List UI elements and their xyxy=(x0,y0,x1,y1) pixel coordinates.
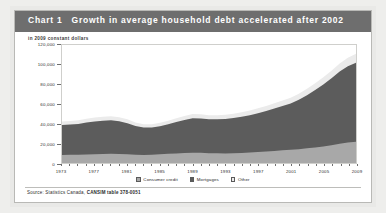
x-axis-tick-mark xyxy=(160,164,161,166)
legend-swatch-icon xyxy=(231,177,236,182)
x-axis-tick-mark xyxy=(69,164,70,166)
y-axis-tick-label: 60,000 xyxy=(15,102,55,107)
x-axis-tick-mark xyxy=(275,164,276,166)
x-axis-tick-mark xyxy=(61,164,62,166)
source-prefix: Source: Statistics Canada, xyxy=(27,190,87,195)
screenshot-root: Chart 1Growth in average household debt … xyxy=(0,0,386,213)
x-axis-tick-label: 1977 xyxy=(79,169,109,174)
x-axis-tick-label: 1981 xyxy=(112,169,142,174)
x-axis-tick-mark xyxy=(316,164,317,166)
x-axis-tick-mark xyxy=(291,164,292,166)
x-axis-tick-label: 2009 xyxy=(342,169,372,174)
x-axis-tick-mark xyxy=(135,164,136,166)
x-axis-tick-mark xyxy=(110,164,111,166)
x-axis-tick-mark xyxy=(225,164,226,166)
y-axis-tick-label: 100,000 xyxy=(15,62,55,67)
y-axis-tick-mark xyxy=(57,104,61,105)
x-axis-tick-mark xyxy=(176,164,177,166)
x-axis-tick-mark xyxy=(94,164,95,166)
x-axis-tick-mark xyxy=(299,164,300,166)
source-note: Source: Statistics Canada, CANSIM table … xyxy=(27,190,141,195)
plot-container: 020,00040,00060,00080,000100,000120,000 … xyxy=(15,11,371,202)
legend-label: Consumer credit xyxy=(143,177,177,182)
legend-item[interactable]: Other xyxy=(231,177,250,182)
x-axis-tick-mark xyxy=(250,164,251,166)
x-axis-tick-mark xyxy=(341,164,342,166)
y-axis-tick-label: 20,000 xyxy=(15,142,55,147)
x-axis-tick-label: 2001 xyxy=(276,169,306,174)
x-axis-tick-mark xyxy=(217,164,218,166)
x-axis-tick-mark xyxy=(151,164,152,166)
y-axis-tick-label: 120,000 xyxy=(15,42,55,47)
x-axis-tick-mark xyxy=(267,164,268,166)
y-axis-tick-label: 0 xyxy=(15,162,55,167)
legend-swatch-icon xyxy=(136,177,141,182)
x-axis-tick-mark xyxy=(349,164,350,166)
x-axis-tick-mark xyxy=(209,164,210,166)
y-axis-tick-mark xyxy=(57,64,61,65)
stacked-area-series xyxy=(62,45,356,163)
x-axis-tick-mark xyxy=(308,164,309,166)
y-axis-tick-mark xyxy=(57,44,61,45)
chart-legend: Consumer creditMortgagesOther xyxy=(15,177,371,182)
x-axis-tick-mark xyxy=(258,164,259,166)
x-axis-tick-mark xyxy=(357,164,358,166)
x-axis-tick-mark xyxy=(201,164,202,166)
legend-swatch-icon xyxy=(190,177,195,182)
x-axis-tick-mark xyxy=(234,164,235,166)
y-axis-tick-label: 40,000 xyxy=(15,122,55,127)
y-axis-tick-label: 80,000 xyxy=(15,82,55,87)
y-axis-tick-mark xyxy=(57,144,61,145)
legend-item[interactable]: Mortgages xyxy=(190,177,219,182)
x-axis-tick-label: 1997 xyxy=(243,169,273,174)
chart-card: Chart 1Growth in average household debt … xyxy=(14,10,372,203)
x-axis-tick-mark xyxy=(77,164,78,166)
x-axis-tick-label: 1985 xyxy=(145,169,175,174)
x-axis-tick-mark xyxy=(184,164,185,166)
x-axis-tick-label: 1989 xyxy=(178,169,208,174)
y-axis-tick-mark xyxy=(57,84,61,85)
x-axis-tick-label: 1993 xyxy=(210,169,240,174)
legend-item[interactable]: Consumer credit xyxy=(136,177,177,182)
x-axis-tick-mark xyxy=(86,164,87,166)
legend-label: Mortgages xyxy=(197,177,219,182)
y-axis-tick-mark xyxy=(57,124,61,125)
x-axis-tick-mark xyxy=(127,164,128,166)
x-axis-tick-mark xyxy=(242,164,243,166)
x-axis-tick-mark xyxy=(332,164,333,166)
x-axis-tick-mark xyxy=(168,164,169,166)
source-table-ref: CANSIM table 378-0051 xyxy=(87,190,141,195)
x-axis-tick-mark xyxy=(324,164,325,166)
x-axis-tick-label: 2005 xyxy=(309,169,339,174)
legend-label: Other xyxy=(238,177,250,182)
x-axis-tick-mark xyxy=(283,164,284,166)
x-axis-tick-mark xyxy=(143,164,144,166)
x-axis-tick-mark xyxy=(119,164,120,166)
source-divider xyxy=(25,187,361,188)
plot-area xyxy=(61,44,357,164)
x-axis-tick-mark xyxy=(102,164,103,166)
x-axis-tick-mark xyxy=(193,164,194,166)
x-axis-tick-label: 1973 xyxy=(46,169,76,174)
